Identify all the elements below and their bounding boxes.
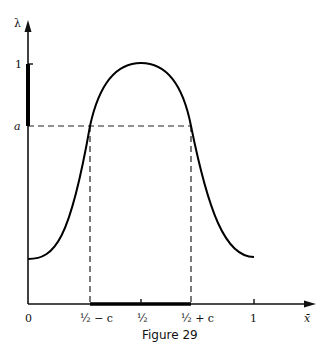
y-axis-label: λ — [14, 17, 21, 30]
figure-diagram: λ 1 a 0 ½ − c ½ ½ + c 1 x̄ Figure 29 — [0, 0, 334, 362]
y-tick-label-a: a — [14, 120, 21, 133]
y-tick-label-1: 1 — [15, 58, 22, 71]
dashed-guides — [28, 126, 191, 304]
x-tick-label-half-minus-c: ½ − c — [80, 312, 113, 325]
lambda-curve — [28, 63, 254, 259]
x-tick-label-half: ½ — [137, 312, 148, 325]
figure-caption: Figure 29 — [142, 328, 198, 342]
ticks — [28, 64, 254, 304]
y-axis-arrow-icon — [25, 20, 32, 32]
x-tick-label-0: 0 — [25, 312, 32, 325]
x-axis-label: x̄ — [304, 312, 311, 325]
axes — [28, 26, 310, 304]
x-axis-arrow-icon — [304, 301, 316, 308]
x-tick-label-1: 1 — [250, 312, 257, 325]
x-tick-label-half-plus-c: ½ + c — [181, 312, 214, 325]
